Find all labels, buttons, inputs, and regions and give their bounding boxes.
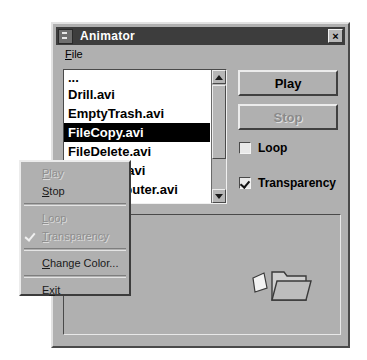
loop-checkbox[interactable] [239, 142, 251, 154]
file-copy-folder-icon [250, 266, 312, 308]
menu-item-exit[interactable]: Exit [21, 281, 129, 299]
scroll-up-arrow-icon[interactable] [212, 70, 226, 84]
loop-label: Loop [258, 141, 287, 155]
menubar-item-file[interactable]: File [62, 47, 86, 61]
list-item[interactable]: EmptyTrash.avi [64, 104, 210, 123]
screen-root: Animator × File ...Drill.aviEmptyTrash.a… [0, 0, 367, 360]
loop-checkbox-row[interactable]: Loop [239, 141, 287, 155]
menubar: File [56, 46, 345, 62]
menu-item-transparency: Transparency [21, 227, 129, 245]
menu-item-label: Play [42, 167, 63, 179]
menu-item-play: Play [21, 164, 129, 182]
menu-item-label: Exit [42, 284, 60, 296]
close-icon[interactable]: × [328, 29, 343, 43]
check-icon [24, 230, 35, 242]
stop-button: Stop [238, 104, 338, 130]
transparency-checkbox-row[interactable]: Transparency [239, 176, 336, 190]
file-popup-menu[interactable]: PlayStopLoopTransparencyChange Color...E… [19, 160, 131, 296]
scrollbar-thumb[interactable] [212, 85, 226, 159]
transparency-checkbox[interactable] [239, 177, 251, 189]
list-item[interactable]: ... [64, 72, 210, 85]
titlebar[interactable]: Animator × [56, 27, 345, 45]
play-button[interactable]: Play [238, 70, 338, 96]
list-item[interactable]: Drill.avi [64, 85, 210, 104]
popup-menu-items: PlayStopLoopTransparencyChange Color...E… [21, 164, 129, 299]
menu-separator [24, 203, 126, 206]
menu-separator [24, 248, 126, 251]
list-item[interactable]: FileDelete.avi [64, 142, 210, 161]
menu-separator [24, 275, 126, 278]
menu-item-label: Transparency [42, 230, 109, 242]
menu-item-stop[interactable]: Stop [21, 182, 129, 200]
window-title: Animator [80, 29, 135, 43]
menu-item-label: Loop [42, 212, 66, 224]
transparency-label: Transparency [258, 176, 336, 190]
menu-item-label: Change Color... [42, 257, 118, 269]
menu-item-label: Stop [42, 185, 65, 197]
menu-item-change-color[interactable]: Change Color... [21, 254, 129, 272]
system-menu-icon[interactable] [58, 29, 73, 44]
scroll-down-arrow-icon[interactable] [212, 189, 226, 203]
list-item[interactable]: FileCopy.avi [64, 123, 210, 142]
menu-item-loop: Loop [21, 209, 129, 227]
listbox-scrollbar[interactable] [211, 70, 226, 203]
